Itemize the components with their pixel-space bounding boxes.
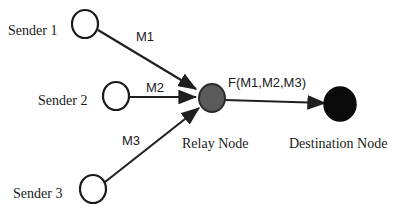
node-label-sender-3: Sender 3 xyxy=(13,187,62,201)
node-label-sender-1: Sender 1 xyxy=(8,24,57,38)
node-sender-3[interactable] xyxy=(80,175,106,203)
edge-fused-line xyxy=(225,100,325,103)
node-relay[interactable] xyxy=(199,84,225,112)
edge-label-m3: M3 xyxy=(122,134,140,147)
diagram-canvas xyxy=(0,0,418,217)
node-label-destination: Destination Node xyxy=(289,137,387,151)
node-sender-2[interactable] xyxy=(103,82,129,110)
edge-label-m1: M1 xyxy=(136,30,154,43)
node-sender-1[interactable] xyxy=(72,10,98,38)
node-destination[interactable] xyxy=(324,87,356,121)
node-label-sender-2: Sender 2 xyxy=(38,94,87,108)
edge-label-m2: M2 xyxy=(146,81,164,94)
node-label-relay: Relay Node xyxy=(182,137,248,151)
relay-network-diagram: Sender 1 Sender 2 Sender 3 Relay Node De… xyxy=(0,0,418,217)
edge-label-fused-function: F(M1,M2,M3) xyxy=(228,76,306,89)
